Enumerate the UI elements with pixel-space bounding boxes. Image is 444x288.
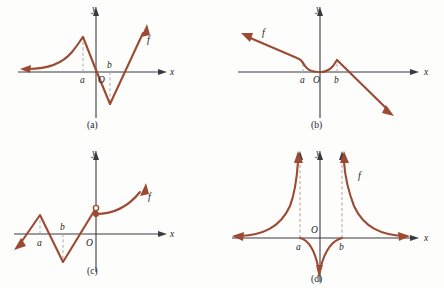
panel-b-x-label: x	[423, 67, 429, 77]
panel-b-caption: (b)	[311, 120, 322, 131]
panel-c-filled-dot	[94, 212, 99, 217]
panel-c-x-label: x	[169, 229, 175, 239]
panel-d-x-label: x	[423, 233, 429, 243]
panel-b-y-axis	[317, 7, 323, 118]
panel-b-curve-label: f	[262, 27, 266, 38]
panel-c-curve-label: f	[148, 191, 152, 202]
panel-a: y x O a b f (a)	[18, 4, 175, 131]
panel-c: y x O a b f (c)	[14, 148, 175, 277]
panel-b-label-a: a	[300, 75, 305, 85]
panel-c-label-a: a	[37, 238, 42, 248]
panel-c-caption: (c)	[87, 266, 98, 277]
panel-c-label-b: b	[60, 222, 65, 232]
panel-b-y-label: y	[315, 4, 321, 14]
figure-four-graphs: y x O a b f (a) y x O a b f (b)	[0, 0, 444, 288]
panel-c-origin-label: O	[86, 238, 93, 248]
panel-c-curve	[14, 183, 149, 262]
panel-d-y-label: y	[315, 148, 321, 158]
panel-d-caption: (d)	[311, 274, 322, 285]
panel-c-x-axis	[14, 231, 167, 237]
panel-a-caption: (a)	[87, 120, 98, 131]
panel-d-x-axis	[232, 235, 419, 241]
panel-a-origin-label: O	[98, 75, 105, 85]
panel-b-origin-label: O	[313, 75, 320, 85]
panel-a-x-axis	[18, 69, 167, 75]
panel-a-x-label: x	[169, 67, 175, 77]
panel-d-label-a: a	[296, 242, 301, 252]
panel-b: y x O a b f (b)	[238, 4, 429, 131]
panel-d-label-b: b	[339, 242, 344, 252]
panel-c-open-circle	[93, 205, 98, 210]
panel-d-origin-label: O	[311, 225, 318, 235]
panel-a-curve-label: f	[147, 34, 151, 45]
panel-b-label-b: b	[334, 75, 339, 85]
panel-a-label-a: a	[80, 75, 85, 85]
panel-a-y-label: y	[91, 4, 97, 14]
panel-a-label-b: b	[107, 60, 112, 70]
panel-d: y x O a b f (d)	[232, 148, 429, 285]
panel-d-curve-label: f	[358, 170, 362, 181]
panel-a-curve	[20, 24, 150, 104]
panel-c-y-label: y	[91, 148, 97, 158]
panel-d-curve	[232, 151, 410, 278]
